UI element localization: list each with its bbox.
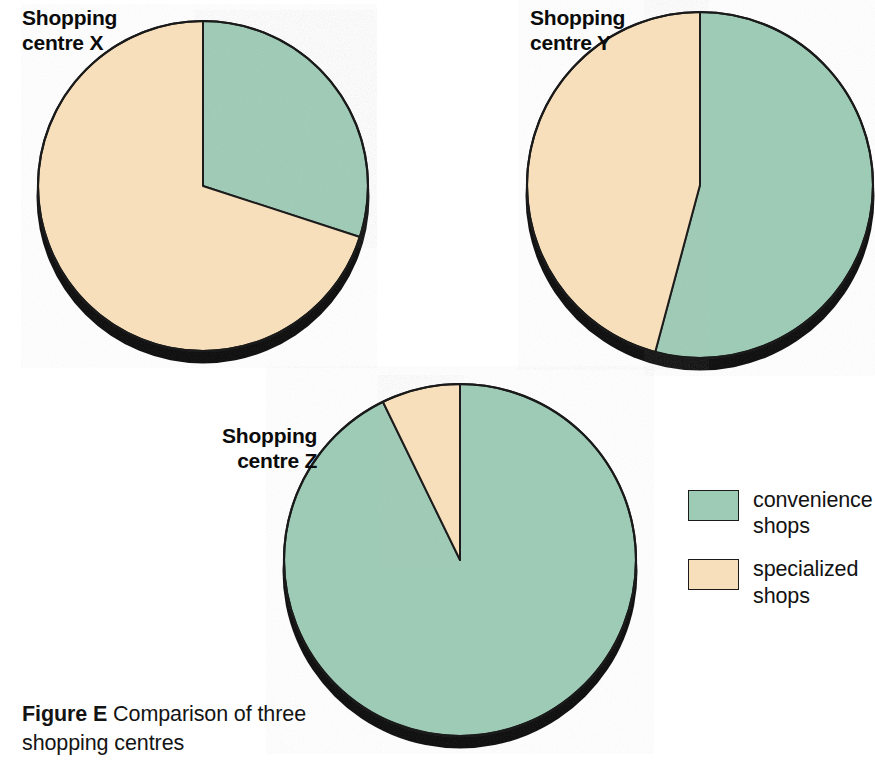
pie-slices-layer bbox=[37, 12, 875, 749]
chart-title-shopping-centre-y: Shopping centre Y bbox=[530, 6, 625, 56]
pie-chart-x bbox=[37, 21, 370, 364]
chart-title-shopping-centre-x: Shopping centre X bbox=[22, 6, 117, 56]
legend-label-specialized-shops: specialized shops bbox=[753, 556, 858, 608]
pie-chart-y bbox=[526, 12, 875, 371]
pie-charts-canvas bbox=[0, 0, 875, 770]
figure-caption-label: Figure E bbox=[22, 702, 107, 726]
convenience-shops-swatch bbox=[688, 490, 739, 521]
legend-item-specialized-shops: specialized shops bbox=[688, 556, 873, 608]
figure-caption: Figure E Comparison of three shopping ce… bbox=[22, 700, 362, 758]
chart-legend: convenience shops specialized shops bbox=[688, 487, 873, 626]
chart-title-shopping-centre-z: Shopping centre Z bbox=[222, 424, 317, 474]
figure-container: Shopping centre X Shopping centre Y Shop… bbox=[0, 0, 875, 770]
legend-label-convenience-shops: convenience shops bbox=[753, 487, 873, 539]
specialized-shops-swatch bbox=[688, 559, 739, 590]
legend-item-convenience-shops: convenience shops bbox=[688, 487, 873, 539]
pie-chart-z bbox=[283, 384, 638, 749]
